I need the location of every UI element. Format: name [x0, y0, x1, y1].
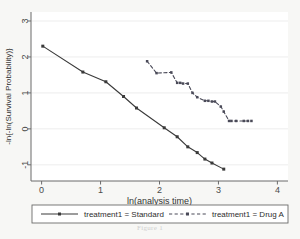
figure-root: -1012301234ln(analysis time)-ln{-ln(Surv…: [0, 0, 300, 239]
legend-marker-drug-a: [186, 213, 189, 216]
log-log-survival-chart: -1012301234ln(analysis time)-ln{-ln(Surv…: [0, 0, 300, 239]
legend-label-drug-a: treatment1 = Drug A: [212, 210, 284, 219]
x-tick-label: 1: [98, 185, 103, 195]
x-axis-label: ln(analysis time): [127, 196, 192, 206]
series-marker: [155, 72, 158, 75]
series-marker: [210, 162, 213, 165]
series-marker: [235, 120, 238, 123]
y-axis-label: -ln{-ln(Survival Probability)}: [4, 48, 13, 145]
series-marker: [243, 120, 246, 123]
series-marker: [135, 107, 138, 110]
series-marker: [146, 60, 149, 63]
x-tick-label: 3: [216, 185, 221, 195]
series-marker: [247, 120, 250, 123]
series-marker: [176, 82, 179, 85]
series-marker: [228, 120, 231, 123]
y-tick-label: 3: [20, 18, 30, 23]
series-marker: [176, 135, 179, 138]
x-tick-label: 2: [157, 185, 162, 195]
series-marker: [187, 82, 190, 85]
figure-caption: Figure 1: [0, 224, 300, 232]
series-marker: [196, 96, 199, 99]
legend-label-standard: treatment1 = Standard: [84, 210, 164, 219]
series-marker: [163, 126, 166, 129]
series-marker: [186, 145, 189, 148]
series-marker: [122, 95, 125, 98]
plot-area: [31, 12, 288, 181]
legend-marker-standard: [58, 213, 61, 216]
x-tick-label: 0: [39, 185, 44, 195]
x-tick-label: 4: [275, 185, 280, 195]
series-marker: [222, 168, 225, 171]
series-marker: [191, 92, 194, 95]
y-tick-label: 1: [20, 90, 30, 95]
series-marker: [41, 45, 44, 48]
series-marker: [211, 100, 214, 103]
series-marker: [204, 100, 207, 103]
series-marker: [214, 100, 217, 103]
y-tick-label: 0: [20, 126, 30, 131]
series-marker: [250, 120, 253, 123]
series-marker: [182, 82, 185, 85]
legend: treatment1 = Standardtreatment1 = Drug A: [32, 205, 288, 223]
series-marker: [207, 100, 210, 103]
series-marker: [196, 151, 199, 154]
series-marker: [203, 158, 206, 161]
series-marker: [104, 80, 107, 83]
series-marker: [230, 120, 233, 123]
series-marker: [220, 105, 223, 108]
series-marker: [179, 82, 182, 85]
series-marker: [170, 71, 173, 74]
y-tick-label: 2: [20, 54, 30, 59]
series-marker: [81, 71, 84, 74]
series-marker: [223, 110, 226, 113]
y-tick-label: -1: [20, 161, 30, 169]
